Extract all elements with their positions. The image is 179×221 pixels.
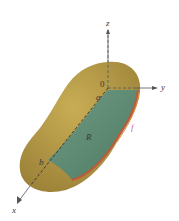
function-f-label: f <box>131 123 134 132</box>
b-label: b <box>39 158 44 167</box>
solid-diagram: z y x 0 a b R f <box>0 0 179 221</box>
a-label: a <box>96 93 101 102</box>
y-axis-label: y <box>161 83 165 92</box>
z-axis-label: z <box>106 19 110 28</box>
x-axis-label: x <box>12 206 16 215</box>
origin-label: 0 <box>100 80 105 89</box>
region-r-label: R <box>86 133 92 142</box>
diagram-canvas <box>0 0 179 221</box>
